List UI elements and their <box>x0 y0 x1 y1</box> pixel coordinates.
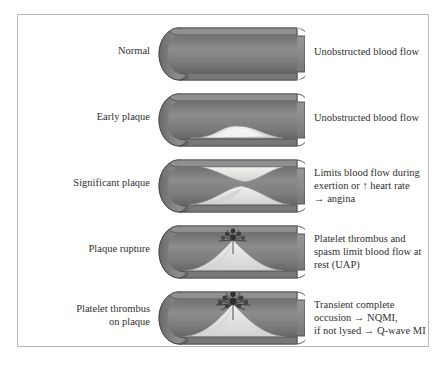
artery-cross-section-icon <box>157 92 305 148</box>
caption-line: → angina <box>314 192 434 205</box>
artery-cross-section-icon <box>157 158 305 214</box>
row-caption-plaque-rupture: Platelet thrombus and spasm limit blood … <box>314 232 434 271</box>
caption-line: rest (UAP) <box>314 258 434 271</box>
diagram-row-plaque-rupture: Plaque rupture <box>18 219 428 285</box>
caption-line: if not lysed → Q-wave MI <box>314 324 434 337</box>
row-label-normal: Normal <box>22 45 150 58</box>
row-label-early-plaque: Early plaque <box>22 111 150 124</box>
row-label-plaque-rupture: Plaque rupture <box>22 243 150 256</box>
artery-cross-section-icon <box>157 290 305 346</box>
caption-line: Platelet thrombus and <box>314 232 434 245</box>
row-caption-significant-plaque: Limits blood flow during exertion or ↑ h… <box>314 166 434 205</box>
diagram-row-platelet-thrombus-on-plaque: Platelet thrombus on plaque <box>18 285 428 351</box>
diagram-row-normal: Normal <box>18 21 428 87</box>
caption-line: spasm limit blood flow at <box>314 245 434 258</box>
caption-line: Limits blood flow during <box>314 166 434 179</box>
label-line: on plaque <box>22 316 150 329</box>
row-label-significant-plaque: Significant plaque <box>22 177 150 190</box>
artery-cross-section-icon <box>157 26 305 82</box>
row-label-platelet-thrombus-on-plaque: Platelet thrombus on plaque <box>22 303 150 328</box>
diagram-row-early-plaque: Early plaque Unobstructed blood flow <box>18 87 428 153</box>
caption-line: Transient complete <box>314 298 434 311</box>
label-line: Platelet thrombus <box>22 303 150 316</box>
row-caption-platelet-thrombus-on-plaque: Transient complete occusion → NQMI, if n… <box>314 298 434 337</box>
artery-cross-section-icon <box>157 224 305 280</box>
caption-line: occusion → NQMI, <box>314 311 434 324</box>
row-caption-early-plaque: Unobstructed blood flow <box>314 111 434 124</box>
row-caption-normal: Unobstructed blood flow <box>314 45 434 58</box>
diagram-row-significant-plaque: Significant plaque <box>18 153 428 219</box>
caption-line: exertion or ↑ heart rate <box>314 179 434 192</box>
figure-panel: Normal <box>17 14 429 347</box>
